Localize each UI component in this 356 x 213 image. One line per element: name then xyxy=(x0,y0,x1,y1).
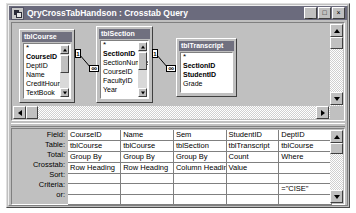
table-row: ="CISE" xyxy=(68,184,332,195)
grid-cell-criteria[interactable]: ="CISE" xyxy=(279,184,332,195)
grid-scroll-down-button[interactable] xyxy=(330,190,343,203)
grid-cell-field[interactable]: Name xyxy=(121,130,174,141)
field-list-tbltranscript[interactable]: * SectionID StudentID Grade xyxy=(180,52,233,93)
scrollbar-thumb[interactable] xyxy=(60,55,69,73)
grid-cell-sort[interactable] xyxy=(68,174,121,184)
table-box-tblsection[interactable]: tblSection * SectionID SectionNumbe Cour… xyxy=(96,26,153,103)
scrollbar-thumb[interactable] xyxy=(138,52,147,70)
grid-vertical-scrollbar-thumb[interactable] xyxy=(330,143,343,154)
grid-cell-or[interactable] xyxy=(121,195,174,205)
table-diagram-pane[interactable]: tblCourse * CourseID DeptID Name CreditH… xyxy=(11,22,345,121)
grid-cell-crosstab[interactable]: Row Heading xyxy=(68,163,121,174)
minimize-icon: _ xyxy=(305,8,316,21)
table-row: CourseID Name Sem StudentID DeptID xyxy=(68,130,332,141)
grid-row-label-table: Table: xyxy=(13,140,68,150)
table-title-tblsection: tblSection xyxy=(99,29,150,39)
diagram-scroll-up-button[interactable] xyxy=(330,24,343,37)
table-row xyxy=(68,174,332,184)
field-item[interactable]: StudentID xyxy=(181,70,232,79)
table-row: Row Heading Row Heading Column Heading V… xyxy=(68,163,332,174)
field-list-scrollbar[interactable] xyxy=(138,42,147,97)
grid-cell-field[interactable]: DeptID xyxy=(279,130,332,141)
grid-cell-crosstab[interactable]: Column Heading xyxy=(173,163,226,174)
table-box-tbltranscript[interactable]: tblTranscript * SectionID StudentID Grad… xyxy=(176,38,237,97)
scroll-down-button[interactable] xyxy=(60,88,69,97)
grid-cell-or[interactable] xyxy=(279,195,332,205)
maximize-icon: □ xyxy=(319,8,330,18)
grid-row-label-field: Field: xyxy=(13,130,68,140)
triangle-up-icon xyxy=(334,135,340,139)
pane-splitter[interactable] xyxy=(11,123,345,127)
table-row: Group By Group By Group By Count Where xyxy=(68,152,332,163)
diagram-scroll-down-button[interactable] xyxy=(330,92,343,105)
table-row xyxy=(68,195,332,205)
grid-cell-total[interactable]: Count xyxy=(226,152,279,163)
diagram-scroll-right-button[interactable] xyxy=(316,106,329,119)
grid-row-label-or: or: xyxy=(13,190,68,200)
window-controls: _ □ × xyxy=(304,7,345,19)
grid-cell-total[interactable]: Where xyxy=(279,152,332,163)
grid-cell-field[interactable]: Sem xyxy=(173,130,226,141)
grid-cell-sort[interactable] xyxy=(173,174,226,184)
diagram-scroll-left-button[interactable] xyxy=(13,106,26,119)
diagram-canvas[interactable]: tblCourse * CourseID DeptID Name CreditH… xyxy=(13,24,331,105)
window-titlebar[interactable]: QryCrossTabHandson : Crosstab Query _ □ … xyxy=(9,6,347,20)
field-item[interactable]: Grade xyxy=(181,79,232,88)
close-button[interactable]: × xyxy=(332,7,345,19)
grid-cell-sort[interactable] xyxy=(226,174,279,184)
grid-cell-crosstab[interactable]: Value xyxy=(226,163,279,174)
grid-row-labels: Field: Table: Total: Crosstab: Sort: Cri… xyxy=(13,130,68,200)
grid-cell-criteria[interactable] xyxy=(121,184,174,195)
grid-row-label-sort: Sort: xyxy=(13,170,68,180)
grid-cell-field[interactable]: CourseID xyxy=(68,130,121,141)
join-badge-many: ∞ xyxy=(166,65,176,72)
diagram-vertical-scrollbar-thumb[interactable] xyxy=(330,37,343,49)
triangle-down-icon xyxy=(334,97,340,101)
grid-cell-criteria[interactable] xyxy=(68,184,121,195)
triangle-up-icon xyxy=(334,29,340,33)
field-list-tblcourse[interactable]: * CourseID DeptID Name CreditHours TextB… xyxy=(23,43,71,99)
query-grid-table[interactable]: CourseID Name Sem StudentID DeptID tblCo… xyxy=(68,130,332,205)
grid-row-label-criteria: Criteria: xyxy=(13,180,68,190)
grid-cell-table[interactable]: tblCourse xyxy=(279,141,332,152)
grid-cell-table[interactable]: tblSection xyxy=(173,141,226,152)
grid-row-label-total: Total: xyxy=(13,150,68,160)
scroll-up-button[interactable] xyxy=(60,45,69,54)
grid-cell-total[interactable]: Group By xyxy=(68,152,121,163)
grid-cell-or[interactable] xyxy=(226,195,279,205)
grid-cell-or[interactable] xyxy=(173,195,226,205)
table-row: tblCourse tblCourse tblSection tblTransc… xyxy=(68,141,332,152)
scroll-up-button[interactable] xyxy=(138,42,147,51)
scroll-down-button[interactable] xyxy=(138,88,147,97)
grid-cell-criteria[interactable] xyxy=(226,184,279,195)
grid-cell-table[interactable]: tblTranscript xyxy=(226,141,279,152)
grid-cell-sort[interactable] xyxy=(121,174,174,184)
grid-cell-table[interactable]: tblCourse xyxy=(121,141,174,152)
query-design-grid-pane[interactable]: Field: Table: Total: Crosstab: Sort: Cri… xyxy=(11,128,345,205)
field-item[interactable]: SectionID xyxy=(181,61,232,70)
grid-cell-sort[interactable] xyxy=(279,174,332,184)
triangle-left-icon xyxy=(18,110,22,116)
maximize-button[interactable]: □ xyxy=(318,7,331,19)
field-item[interactable]: * xyxy=(181,53,232,61)
table-box-tblcourse[interactable]: tblCourse * CourseID DeptID Name CreditH… xyxy=(19,29,75,103)
grid-cell-crosstab[interactable]: Row Heading xyxy=(121,163,174,174)
grid-cell-or[interactable] xyxy=(68,195,121,205)
field-list-tblsection[interactable]: * SectionID SectionNumbe CourseID Facult… xyxy=(100,40,149,99)
triangle-down-icon xyxy=(63,91,67,94)
field-list-scrollbar[interactable] xyxy=(60,45,69,97)
diagram-horizontal-scrollbar-thumb[interactable] xyxy=(26,106,38,119)
grid-cell-total[interactable]: Group By xyxy=(121,152,174,163)
grid-cell-table[interactable]: tblCourse xyxy=(68,141,121,152)
diagram-horizontal-scrollbar[interactable] xyxy=(13,106,330,119)
grid-cell-total[interactable]: Group By xyxy=(173,152,226,163)
grid-cell-crosstab[interactable] xyxy=(279,163,332,174)
grid-row-label-crosstab: Crosstab: xyxy=(13,160,68,170)
triangle-up-icon xyxy=(141,45,145,48)
grid-cell-field[interactable]: StudentID xyxy=(226,130,279,141)
minimize-button[interactable]: _ xyxy=(304,7,317,19)
grid-scroll-up-button[interactable] xyxy=(330,130,343,143)
table-title-tbltranscript: tblTranscript xyxy=(179,41,234,51)
grid-cell-criteria[interactable] xyxy=(173,184,226,195)
triangle-down-icon xyxy=(141,91,145,94)
